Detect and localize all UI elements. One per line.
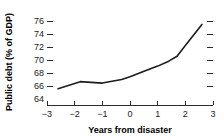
y-tick-label-74: 74 [34, 29, 44, 39]
x-axis-title: Years from disaster [88, 125, 172, 135]
chart-canvas: Public debt (% of GDP) 76 74 72 70 68 66… [0, 0, 224, 140]
y-tick-label-66: 66 [34, 81, 44, 91]
y-tick-label-64: 64 [34, 94, 44, 104]
x-tick-label-1: 1 [155, 109, 160, 119]
x-tick-label--1: −1 [97, 109, 107, 119]
x-tick-label--2: −2 [70, 109, 80, 119]
y-tick-label-70: 70 [34, 55, 44, 65]
y-tick-label-76: 76 [34, 16, 44, 26]
x-tick-label-0: 0 [127, 109, 132, 119]
x-tick-label--3: −3 [42, 109, 52, 119]
line-chart: Public debt (% of GDP) 76 74 72 70 68 66… [0, 0, 224, 140]
y-tick-label-68: 68 [34, 68, 44, 78]
y-axis-title: Public debt (% of GDP) [4, 13, 14, 111]
x-tick-label-3: 3 [210, 109, 215, 119]
x-tick-label-2: 2 [183, 109, 188, 119]
y-tick-label-72: 72 [34, 42, 44, 52]
